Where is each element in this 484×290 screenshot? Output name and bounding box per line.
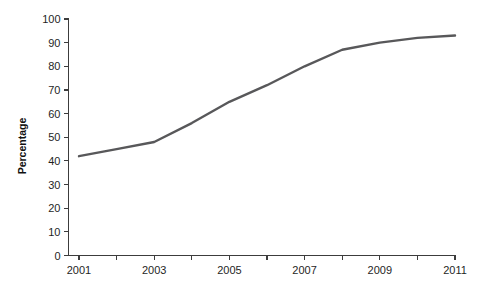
x-tick-label: 2009 <box>368 264 392 276</box>
y-tick-label: 70 <box>48 84 60 96</box>
line-chart: 0102030405060708090100 20012003200520072… <box>0 0 484 290</box>
y-tick-label: 40 <box>48 155 60 167</box>
y-tick-label: 20 <box>48 202 60 214</box>
y-tick-label: 10 <box>48 226 60 238</box>
y-tick-label: 90 <box>48 37 60 49</box>
x-tick-label: 2011 <box>443 264 467 276</box>
y-tick-label: 100 <box>42 13 60 25</box>
y-axis-title: Percentage <box>16 118 28 175</box>
chart-canvas: 0102030405060708090100 20012003200520072… <box>0 0 484 290</box>
x-tick-label: 2001 <box>67 264 91 276</box>
chart-background <box>0 0 484 290</box>
x-tick-label: 2005 <box>217 264 241 276</box>
x-tick-label: 2003 <box>142 264 166 276</box>
y-tick-label: 80 <box>48 60 60 72</box>
y-tick-label: 0 <box>54 250 60 262</box>
y-tick-label: 60 <box>48 108 60 120</box>
x-tick-label: 2007 <box>292 264 316 276</box>
y-tick-label: 30 <box>48 179 60 191</box>
y-tick-label: 50 <box>48 131 60 143</box>
